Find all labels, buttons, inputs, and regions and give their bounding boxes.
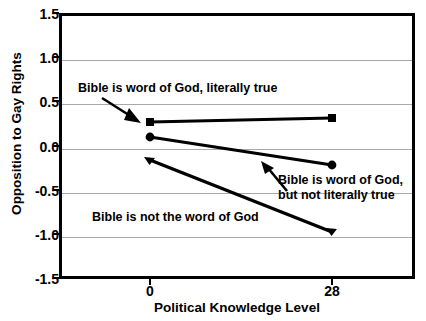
y-tick-label-5: -0.5 — [15, 184, 59, 198]
annotation-not-word: Bible is not the word of God — [92, 210, 259, 225]
annotation-literal-line-1: Bible is word of God, literally true — [78, 81, 277, 96]
gridline-1.0 — [62, 60, 412, 61]
plot-area — [59, 13, 415, 279]
y-tick-label-1: 1.5 — [15, 7, 59, 21]
annotation-literal: Bible is word of God, literally true — [78, 81, 277, 96]
chart-figure: Opposition to Gay Rights 1.5 1.0 0.5 0.0… — [0, 0, 426, 321]
y-tick-label-2: 1.0 — [15, 51, 59, 65]
gridline-0.5 — [62, 104, 412, 105]
y-tick-label-4: 0.0 — [15, 140, 59, 154]
x-tick-label-28: 28 — [312, 284, 352, 298]
y-tick-label-6: -1.0 — [15, 228, 59, 242]
annotation-not-word-line-1: Bible is not the word of God — [92, 210, 259, 225]
y-tick-label-3: 0.5 — [15, 95, 59, 109]
gridline--1.0 — [62, 237, 412, 238]
annotation-not-literal-line-1: Bible is word of God, — [278, 173, 403, 188]
y-tick-label-7: -1.5 — [15, 272, 59, 286]
annotation-not-literal-line-2: but not literally true — [278, 188, 403, 203]
annotation-not-literal: Bible is word of God, but not literally … — [278, 173, 403, 203]
x-axis-title: Political Knowledge Level — [59, 300, 415, 315]
gridline-0.0 — [62, 149, 412, 150]
x-tick-label-0: 0 — [130, 284, 170, 298]
